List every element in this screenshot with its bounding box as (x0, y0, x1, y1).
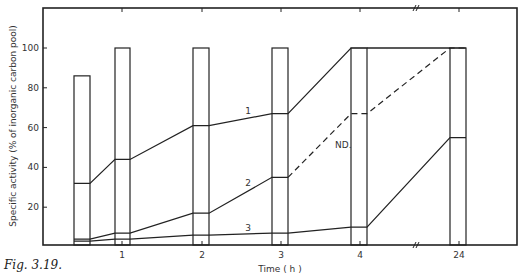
curves (74, 48, 466, 241)
pool-bar (193, 48, 209, 245)
y-axis-title: Specific activity (% of inorganic carbon… (8, 25, 18, 227)
curve-2-dashed (288, 48, 466, 177)
curve-2 (74, 177, 288, 239)
y-tick-label: 20 (28, 202, 40, 212)
x-tick-label: 3 (278, 250, 284, 260)
x-tick-label: 1 (119, 250, 125, 260)
figure-caption: Fig. 3.19. (4, 258, 62, 272)
y-tick-label: 100 (22, 43, 39, 53)
plot-border (43, 8, 517, 245)
nd-annotation: ND. (335, 140, 352, 150)
pool-bar (115, 48, 130, 245)
curve-label: 3 (245, 223, 251, 233)
x-tick-label: 24 (453, 250, 465, 260)
axis-labels: 123ND.Time ( h )Specific activity (% of … (8, 25, 352, 274)
plot-frame: 20406080100123424 (22, 5, 517, 260)
pool-bars (74, 48, 466, 245)
curve-1 (74, 48, 466, 183)
y-tick-label: 40 (28, 162, 40, 172)
pool-bar (272, 48, 288, 245)
curve-label: 2 (245, 178, 251, 188)
curve-label: 1 (245, 106, 251, 116)
curve-3 (74, 138, 466, 241)
pool-bar (351, 48, 367, 245)
chart: 20406080100123424 123ND.Time ( h )Specif… (0, 0, 529, 276)
pool-bar (450, 48, 466, 245)
x-tick-label: 4 (357, 250, 363, 260)
x-axis-title: Time ( h ) (257, 264, 301, 274)
x-tick-label: 2 (199, 250, 205, 260)
pool-bar (74, 76, 90, 245)
y-tick-label: 60 (28, 123, 40, 133)
y-tick-label: 80 (28, 83, 40, 93)
